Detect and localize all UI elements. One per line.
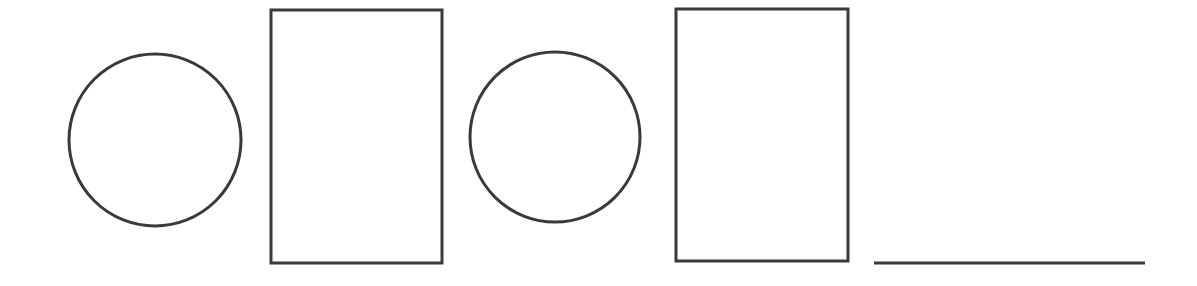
figure-canvas (0, 0, 1197, 286)
canvas-background (0, 0, 1197, 286)
shapes-svg (0, 0, 1197, 286)
